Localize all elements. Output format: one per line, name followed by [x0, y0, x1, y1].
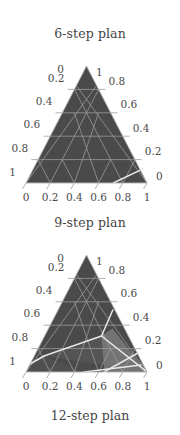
bottom-tick-label: 0.8 [114, 380, 131, 392]
left-tick-label: 0.4 [36, 284, 53, 296]
left-tick-label: 0.4 [36, 95, 53, 107]
left-tick-label: 0.6 [24, 118, 41, 130]
bottom-tick-label: 0.2 [42, 380, 59, 392]
right-tick-label: 0.2 [145, 334, 162, 346]
apex-label-right: 1 [96, 66, 103, 78]
right-tick-label: 0.4 [133, 122, 150, 134]
bottom-left-label: 1 [9, 166, 16, 178]
ternary-plot-figure-page: { "figure": { "background_color": "#ffff… [0, 0, 180, 435]
bottom-tickmarks [23, 183, 148, 189]
bottom-tick-label: 0.6 [90, 380, 107, 392]
panel-title-6-step: 6-step plan [0, 26, 180, 41]
left-tick-label: 0.8 [11, 142, 28, 154]
bottom-left-label: 1 [9, 355, 16, 367]
right-tick-label: 0.6 [121, 98, 138, 110]
bottom-tick-label: 1 [144, 380, 151, 392]
bottom-tick-label: 0 [23, 380, 30, 392]
left-tick-label: 0.2 [48, 72, 65, 84]
panel-title-9-step: 9-step plan [0, 215, 180, 230]
right-tick-label: 0.8 [109, 264, 126, 276]
bottom-tick-label: 0.4 [66, 380, 83, 392]
bottom-tickmarks [23, 372, 148, 378]
ternary-plot-6-step: 0 0.2 0.4 0.6 0.8 1 0 0.2 0.4 0.6 0.8 1 … [0, 44, 180, 204]
left-tick-label: 0.8 [11, 331, 28, 343]
right-tick-label: 0.2 [145, 145, 162, 157]
left-tick-label: 0.2 [48, 261, 65, 273]
left-tick-label: 0.6 [24, 307, 41, 319]
apex-label-right: 1 [96, 255, 103, 267]
simplex-fill-region [26, 66, 147, 183]
right-tick-label: 0.6 [121, 287, 138, 299]
bottom-right-label: 0 [156, 170, 163, 182]
bottom-tick-labels: 0 0.2 0.4 0.6 0.8 1 [23, 380, 151, 392]
right-tick-label: 0.8 [109, 75, 126, 87]
panel-title-12-step: 12-step plan [0, 408, 180, 423]
ternary-plot-9-step: 0 0.2 0.4 0.6 0.8 1 0 0.2 0.4 0.6 0.8 1 … [0, 233, 180, 403]
ternary-panel-9-step: 9-step plan [0, 193, 180, 435]
ternary-panel-6-step: 6-step plan [0, 0, 180, 205]
right-tick-label: 0.4 [133, 311, 150, 323]
bottom-right-label: 0 [156, 359, 163, 371]
